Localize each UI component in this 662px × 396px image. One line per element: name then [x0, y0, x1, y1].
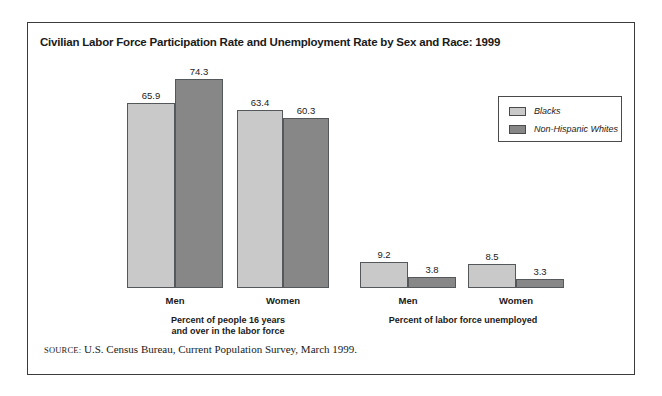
- legend-swatch-non-hispanic-whites: [509, 125, 526, 134]
- bar-wrap-unemp-blacks-men: 9.2: [360, 262, 408, 288]
- bar-value-unemp-blacks-women: 8.5: [485, 251, 498, 262]
- bar-wrap-blacks-women: 63.4: [237, 110, 283, 288]
- bar-wrap-whites-women: 60.3: [283, 118, 329, 288]
- bar-unemp-blacks-women: [468, 264, 516, 288]
- participation-caption-line1: Percent of people 16 years: [123, 315, 333, 326]
- bar-whites-men: [175, 79, 223, 288]
- bar-wrap-whites-men: 74.3: [175, 79, 223, 288]
- bar-value-unemp-blacks-men: 9.2: [377, 249, 390, 260]
- source-prefix: SOURCE:: [44, 345, 81, 355]
- bar-value-blacks-women: 63.4: [251, 97, 270, 108]
- bar-wrap-unemp-whites-women: 3.3: [516, 279, 564, 288]
- bar-value-unemp-whites-women: 3.3: [533, 266, 546, 277]
- source-note: SOURCE: U.S. Census Bureau, Current Popu…: [44, 343, 357, 355]
- category-label-unemployment-men: Men: [360, 295, 456, 306]
- legend-swatch-blacks: [509, 107, 526, 116]
- participation-caption-line2: and over in the labor force: [123, 326, 333, 337]
- bar-unemp-whites-men: [408, 277, 456, 288]
- bar-value-whites-men: 74.3: [190, 66, 209, 77]
- category-label-unemployment-women: Women: [468, 295, 564, 306]
- participation-rate-chart: 65.9 74.3 63.4 60.3: [83, 63, 373, 288]
- bar-whites-women: [283, 118, 329, 288]
- figure-frame: Civilian Labor Force Participation Rate …: [27, 22, 635, 375]
- bar-group-unemployment-men: 9.2 3.8: [360, 262, 456, 288]
- unemployment-caption: Percent of labor force unemployed: [352, 315, 574, 326]
- bar-group-men: 65.9 74.3: [127, 79, 223, 288]
- bar-wrap-unemp-blacks-women: 8.5: [468, 264, 516, 288]
- bar-blacks-men: [127, 103, 175, 288]
- bar-unemp-whites-women: [516, 279, 564, 288]
- bar-value-whites-women: 60.3: [297, 105, 316, 116]
- legend-label-blacks: Blacks: [534, 106, 561, 116]
- legend-label-non-hispanic-whites: Non-Hispanic Whites: [534, 124, 618, 134]
- bar-group-unemployment-women: 8.5 3.3: [468, 264, 564, 288]
- participation-caption: Percent of people 16 years and over in t…: [123, 315, 333, 337]
- bar-unemp-blacks-men: [360, 262, 408, 288]
- category-label-participation-women: Women: [237, 295, 329, 306]
- bar-value-unemp-whites-men: 3.8: [425, 264, 438, 275]
- bar-blacks-women: [237, 110, 283, 288]
- unemployment-caption-line1: Percent of labor force unemployed: [352, 315, 574, 326]
- legend-item-blacks: Blacks: [509, 103, 621, 119]
- page-title: Civilian Labor Force Participation Rate …: [40, 36, 500, 48]
- legend-item-non-hispanic-whites: Non-Hispanic Whites: [509, 121, 621, 137]
- category-label-participation-men: Men: [127, 295, 223, 306]
- source-text: U.S. Census Bureau, Current Population S…: [84, 343, 357, 355]
- bar-value-blacks-men: 65.9: [142, 90, 161, 101]
- bar-wrap-blacks-men: 65.9: [127, 103, 175, 288]
- chart-legend: Blacks Non-Hispanic Whites: [498, 96, 622, 142]
- bar-wrap-unemp-whites-men: 3.8: [408, 277, 456, 288]
- unemployment-rate-chart: 9.2 3.8 8.5 3.3: [328, 258, 588, 288]
- bar-group-women: 63.4 60.3: [237, 110, 329, 288]
